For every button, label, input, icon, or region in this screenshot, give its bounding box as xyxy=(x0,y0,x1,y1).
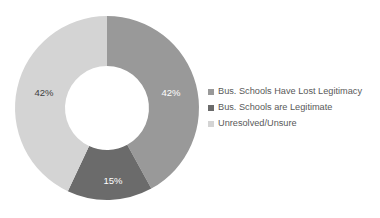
legend-swatch-icon xyxy=(208,121,214,127)
donut-slice-label: 15% xyxy=(103,175,123,186)
chart-legend: Bus. Schools Have Lost Legitimacy Bus. S… xyxy=(208,84,380,132)
legend-item-bus-schools-have-lost-legitimacy[interactable]: Bus. Schools Have Lost Legitimacy xyxy=(208,84,380,99)
legend-swatch-icon xyxy=(208,105,214,111)
legend-swatch-icon xyxy=(208,89,214,95)
legend-item-label: Unresolved/Unsure xyxy=(218,118,297,129)
legend-item-unresolved-unsure[interactable]: Unresolved/Unsure xyxy=(208,116,380,131)
legend-item-bus-schools-are-legitimate[interactable]: Bus. Schools are Legitimate xyxy=(208,100,380,115)
donut-slice-label: 42% xyxy=(161,87,181,98)
legend-item-label: Bus. Schools Have Lost Legitimacy xyxy=(218,86,362,97)
donut-slice-label: 42% xyxy=(34,87,54,98)
donut-slice-group xyxy=(15,16,199,200)
donut-chart: 42%15%42% Bus. Schools Have Lost Legitim… xyxy=(0,0,380,218)
legend-item-label: Bus. Schools are Legitimate xyxy=(218,102,332,113)
